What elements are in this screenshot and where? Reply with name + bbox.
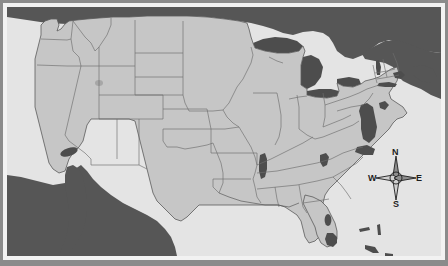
- us-map-svg[interactable]: [7, 7, 441, 256]
- map-screenshot: N S W E: [0, 0, 448, 266]
- map-viewport[interactable]: [7, 7, 441, 256]
- water-lake-okeechobee: [325, 214, 332, 226]
